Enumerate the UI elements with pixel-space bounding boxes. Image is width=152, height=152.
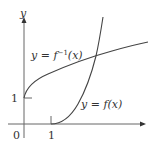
y-tick-label: 1 bbox=[11, 92, 18, 105]
function-label-arg: (x) bbox=[108, 98, 123, 111]
x-axis-arrow-icon bbox=[140, 122, 146, 127]
origin-label: 0 bbox=[13, 129, 20, 142]
inverse-function-diagram: y 1 0 1 y = f−1(x) y = f(x) bbox=[0, 0, 152, 152]
x-tick-label: 1 bbox=[48, 129, 55, 142]
inverse-function-label: y = f−1(x) bbox=[30, 49, 83, 62]
inverse-label-lhs: y = bbox=[30, 49, 53, 62]
function-label-lhs: y = bbox=[80, 98, 103, 111]
inverse-label-superscript: −1 bbox=[58, 49, 68, 57]
diagram-canvas: y 1 0 1 y = f−1(x) y = f(x) bbox=[0, 0, 152, 152]
inverse-label-arg: (x) bbox=[68, 49, 83, 62]
y-axis-label: y bbox=[19, 7, 27, 20]
function-label: y = f(x) bbox=[80, 98, 122, 111]
